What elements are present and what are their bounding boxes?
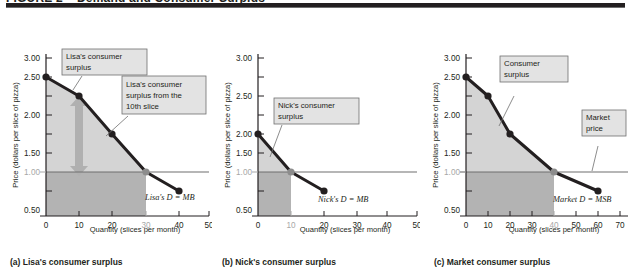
x-axis-title-c: Quantity (slices per month) (509, 225, 600, 234)
chart-b: 3.00 2.50 2.00 1.50 1.00 0.50 0 10 20 30… (212, 20, 420, 235)
y-tick-label-c-200: 2.00 (444, 111, 460, 120)
y-tick-label-b-050: 0.50 (236, 206, 252, 215)
surplus-callout-b: Nick's consumer surplus (274, 98, 359, 124)
figure-demand-and-consumer-surplus: FIGURE 2Demand and Consumer Surplus (0, 0, 631, 271)
y-axis-title-b: Price (dollars per slice of pizza) (223, 82, 232, 188)
x-ticks-b (324, 211, 417, 216)
surplus-callout-b-line1: Nick's consumer (278, 101, 335, 110)
surplus-callout-b-line2: surplus (278, 112, 303, 121)
chart-a-xtitle-svg: Quantity (slices per month) (0, 220, 212, 236)
y-tick-label-a-200: 2.00 (24, 111, 40, 120)
market-price-callout-c: Market price (582, 110, 626, 136)
curve-label-a: Lisa's D = MB (144, 193, 195, 202)
point-c-40 (550, 168, 557, 175)
expenditure-region-a (46, 172, 146, 216)
market-price-callout-line1: Market (586, 113, 611, 122)
chart-c-svg: 3.00 2.50 2.00 1.50 1.00 0.50 0 10 20 (420, 20, 631, 235)
y-tick-label-a-250: 2.50 (24, 73, 40, 82)
x-axis-title-b: Quantity (slices per month) (300, 225, 391, 234)
point-a-20 (108, 130, 115, 137)
market-price-callout-line2: price (586, 124, 603, 133)
y-axis-title-a: Price (dollars per slice of pizza) (11, 82, 20, 188)
expenditure-region-b (258, 172, 291, 216)
caption-b: (b) Nick's consumer surplus (222, 257, 336, 267)
tenth-slice-callout-a-line3: 10th slice (126, 102, 159, 111)
y-tick-label-c-250: 2.50 (444, 73, 460, 82)
point-b-10 (287, 168, 294, 175)
curve-label-b: Nick's D = MB (317, 195, 368, 204)
point-b-0 (254, 130, 261, 137)
surplus-callout-c-line2: surplus (504, 70, 529, 79)
chart-c: 3.00 2.50 2.00 1.50 1.00 0.50 0 10 20 (420, 20, 631, 235)
surplus-callout-a: Lisa's consumer surplus (62, 49, 147, 75)
panel-a-lisa: 3.00 2.50 2.00 1.50 1.00 0.50 0 10 20 30 (0, 20, 212, 271)
chart-a-svg: 3.00 2.50 2.00 1.50 1.00 0.50 0 10 20 30 (0, 20, 212, 235)
curve-label-c: Market D = MSB (552, 195, 611, 204)
panel-c-market: 3.00 2.50 2.00 1.50 1.00 0.50 0 10 20 (420, 20, 631, 271)
surplus-callout-c: Consumer surplus (500, 56, 568, 82)
surplus-callout-c-line1: Consumer (504, 59, 540, 68)
caption-c: (c) Market consumer surplus (434, 257, 550, 267)
y-tick-label-b-250: 2.50 (236, 92, 252, 101)
tenth-slice-callout-a-line2: surplus from the (126, 91, 182, 100)
y-tick-label-c-100: 1.00 (444, 168, 460, 177)
figure-header: FIGURE 2Demand and Consumer Surplus (0, 0, 631, 12)
y-tick-label-b-100: 1.00 (236, 168, 252, 177)
surplus-region-c (466, 77, 554, 172)
tenth-slice-callout-a-line1: Lisa's consumer (126, 80, 182, 89)
callout-leader-b (270, 125, 282, 157)
chart-a: 3.00 2.50 2.00 1.50 1.00 0.50 0 10 20 30 (0, 20, 212, 235)
point-a-0 (42, 73, 49, 80)
point-b-20 (320, 187, 327, 194)
expenditure-region-c (466, 172, 554, 216)
chart-b-xtitle-svg: Quantity (slices per month) (212, 220, 420, 236)
y-tick-label-b-150: 1.50 (236, 149, 252, 158)
chart-c-xtitle-svg: Quantity (slices per month) (420, 220, 631, 236)
callout-leader-a2 (106, 116, 128, 136)
point-c-10 (484, 92, 491, 99)
y-tick-label-c-150: 1.50 (444, 149, 460, 158)
point-a-30 (142, 168, 149, 175)
y-tick-label-a-300: 3.00 (24, 54, 40, 63)
callout-leader-a1 (73, 76, 82, 90)
point-c-20 (506, 130, 513, 137)
y-tick-label-c-300: 3.00 (444, 54, 460, 63)
surplus-callout-a-line2: surplus (66, 63, 91, 72)
point-a-10 (75, 92, 82, 99)
y-tick-label-b-300: 3.00 (236, 54, 252, 63)
point-c-60 (594, 187, 601, 194)
y-axis-title-c: Price (dollars per slice of pizza) (431, 82, 440, 188)
tenth-slice-callout-a: Lisa's consumer surplus from the 10th sl… (122, 76, 206, 114)
callout-leader-c2 (592, 146, 598, 171)
panel-b-nick: 3.00 2.50 2.00 1.50 1.00 0.50 0 10 20 30… (212, 20, 420, 271)
caption-a: (a) Lisa's consumer surplus (10, 257, 123, 267)
surplus-callout-a-line1: Lisa's consumer (66, 52, 122, 61)
y-tick-label-a-050: 0.50 (24, 206, 40, 215)
point-c-0 (462, 73, 469, 80)
header-rule-thin (6, 7, 625, 8)
chart-b-svg: 3.00 2.50 2.00 1.50 1.00 0.50 0 10 20 30… (212, 20, 420, 235)
y-tick-label-a-150: 1.50 (24, 149, 40, 158)
x-axis-title-a: Quantity (slices per month) (90, 225, 181, 234)
callout-leader-c1 (499, 96, 514, 126)
y-tick-label-b-200: 2.00 (236, 130, 252, 139)
y-tick-label-c-050: 0.50 (444, 206, 460, 215)
y-tick-label-a-100: 1.00 (24, 168, 40, 177)
